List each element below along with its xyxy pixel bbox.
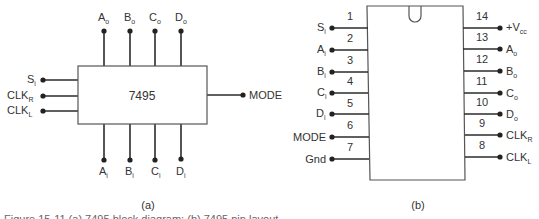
pin-dot	[240, 92, 245, 97]
pin-number: 9	[479, 117, 485, 129]
dip-label-bo: Bo	[506, 65, 517, 79]
dip-label-clk-l: CLKL	[506, 151, 531, 165]
pin-label-clk-r: CLKR	[7, 89, 33, 103]
dip-label-ao: Ao	[506, 43, 517, 57]
pin-label-b-out: Bo	[124, 11, 135, 25]
pin-number: 1	[347, 10, 353, 22]
pin-label-c-out: Co	[149, 11, 161, 25]
pin-label-serial-in: Si	[27, 73, 36, 87]
dip-label-clk-r: CLKR	[506, 129, 532, 143]
pin-number: 7	[347, 141, 353, 153]
dip-label-si: Si	[317, 21, 326, 35]
chip-label: 7495	[129, 89, 156, 103]
pin-number: 2	[347, 32, 353, 44]
pin-number: 10	[476, 96, 488, 108]
pin-layout-b: 1 2 3 4 5 6 7 Si Ai Bi Ci Di MODE Gnd	[293, 6, 532, 211]
pin-number: 11	[476, 75, 487, 87]
pin-number: 5	[347, 97, 353, 109]
pin-dot	[101, 157, 106, 162]
figure-caption-text: Figure 15-11 (a) 7495 block diagram; (b)…	[0, 214, 539, 219]
pin-dot	[40, 77, 45, 82]
pin-dot	[152, 28, 157, 33]
pin-number: 4	[347, 75, 353, 87]
pin-dot	[127, 157, 132, 162]
pin-dot	[101, 28, 106, 33]
pin-number: 8	[479, 139, 485, 151]
pin-dot	[178, 28, 183, 33]
dip-label-ai: Ai	[317, 43, 326, 57]
pin-label-mode: MODE	[249, 89, 282, 101]
pin-label-c-in: Ci	[151, 165, 161, 179]
pin-number: 3	[347, 54, 353, 66]
pin-label-d-out: Do	[175, 11, 187, 25]
pin-number: 6	[347, 119, 353, 131]
pin-number: 14	[476, 10, 488, 22]
caption-a: (a)	[141, 199, 154, 211]
top-pins: Ao Bo Co Do	[98, 11, 187, 66]
pin-label-a-out: Ao	[98, 11, 109, 25]
pin-dot	[152, 157, 157, 162]
figure-caption-clipped: Figure 15-11 (a) 7495 block diagram; (b)…	[0, 214, 539, 219]
pin-label-clk-l: CLKL	[7, 104, 32, 118]
pin-dot	[40, 108, 45, 113]
dip-label-di: Di	[316, 107, 326, 121]
figure-canvas: Ao Bo Co Do Ai Bi Ci Di	[0, 0, 539, 219]
dip-package	[367, 6, 465, 180]
dip-label-mode: MODE	[293, 131, 326, 143]
pin-dot	[178, 156, 183, 161]
dip-label-gnd: Gnd	[305, 153, 326, 165]
pin-label-a-in: Ai	[99, 165, 108, 179]
dip-label-bi: Bi	[317, 65, 326, 79]
pin-dot	[127, 28, 132, 33]
dip-label-vcc: +Vcc	[506, 21, 527, 35]
pin-number: 12	[476, 53, 488, 65]
bottom-pins: Ai Bi Ci Di	[99, 124, 186, 179]
pin-label-b-in: Bi	[125, 165, 134, 179]
block-diagram-a: Ao Bo Co Do Ai Bi Ci Di	[7, 11, 282, 211]
dip-label-do: Do	[506, 108, 518, 122]
dip-left-pins: 1 2 3 4 5 6 7 Si Ai Bi Ci Di MODE Gnd	[293, 10, 369, 165]
pin-number: 13	[476, 31, 488, 43]
pin-dot	[40, 93, 45, 98]
dip-right-pins: 14 13 12 11 10 9 8 +Vcc Ao Bo Co Do CLKR…	[463, 10, 532, 165]
left-pins: Si CLKR CLKL	[7, 73, 78, 118]
caption-b: (b)	[411, 199, 424, 211]
pin-label-d-in: Di	[176, 165, 186, 179]
right-pins: MODE	[207, 89, 282, 101]
dip-label-co: Co	[506, 87, 518, 101]
dip-label-ci: Ci	[317, 86, 327, 100]
